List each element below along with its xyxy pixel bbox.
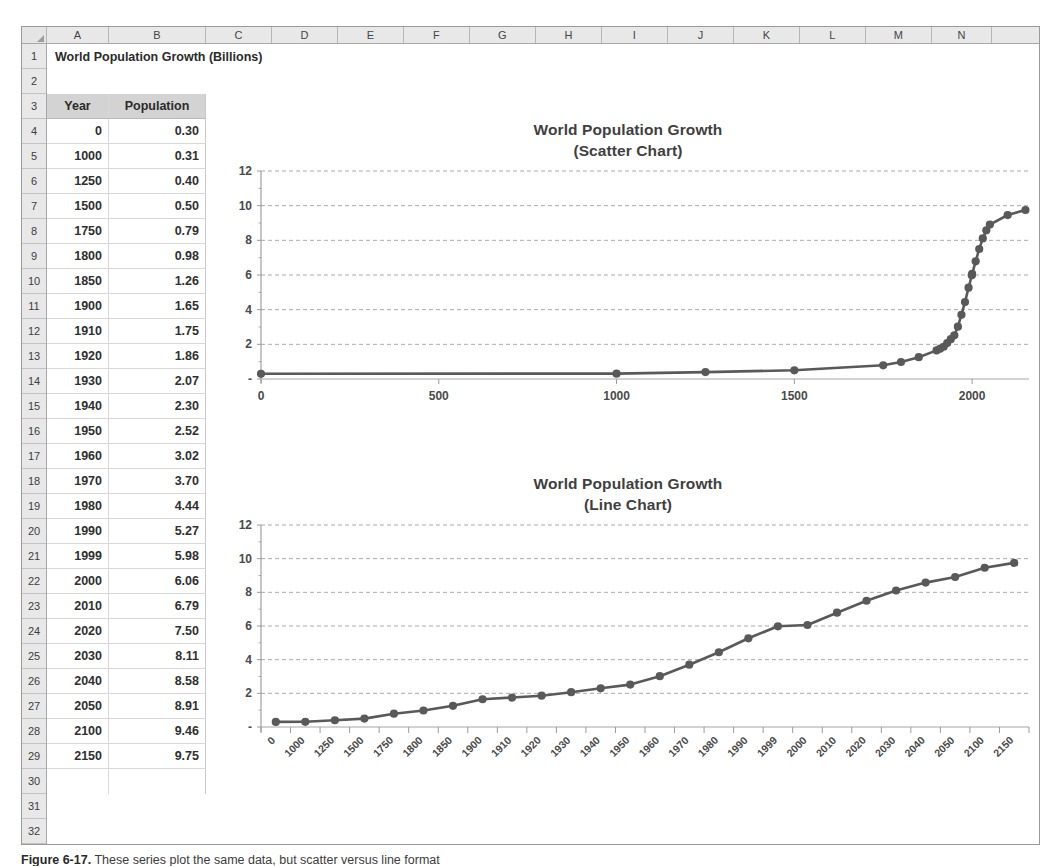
row-header-29[interactable]: 29	[22, 744, 46, 769]
data-point[interactable]	[964, 284, 972, 292]
column-header-a[interactable]: A	[47, 27, 109, 43]
data-point[interactable]	[981, 564, 989, 572]
data-point[interactable]	[419, 706, 427, 714]
cell-empty[interactable]	[109, 69, 206, 94]
row-header-12[interactable]: 12	[22, 319, 46, 344]
data-point[interactable]	[986, 220, 994, 228]
data-point[interactable]	[1010, 559, 1018, 567]
column-header-m[interactable]: M	[866, 27, 932, 43]
row-header-19[interactable]: 19	[22, 494, 46, 519]
cell-population[interactable]: 9.46	[109, 719, 206, 744]
data-point[interactable]	[897, 358, 905, 366]
cell-year[interactable]: 1990	[47, 519, 109, 544]
cell-population[interactable]: 2.30	[109, 394, 206, 419]
row-header-25[interactable]: 25	[22, 644, 46, 669]
data-point[interactable]	[950, 331, 958, 339]
row-header-13[interactable]: 13	[22, 344, 46, 369]
cell-population[interactable]: 4.44	[109, 494, 206, 519]
column-header-e[interactable]: E	[338, 27, 404, 43]
row-header-17[interactable]: 17	[22, 444, 46, 469]
row-header-18[interactable]: 18	[22, 469, 46, 494]
data-point[interactable]	[597, 684, 605, 692]
table-header-year[interactable]: Year	[47, 94, 109, 119]
cell-year[interactable]: 1750	[47, 219, 109, 244]
cell-population[interactable]: 6.79	[109, 594, 206, 619]
data-point[interactable]	[656, 672, 664, 680]
cell-population[interactable]: 0.50	[109, 194, 206, 219]
row-header-31[interactable]: 31	[22, 794, 46, 819]
column-header-b[interactable]: B	[109, 27, 206, 43]
data-point[interactable]	[257, 370, 265, 378]
cell-year[interactable]: 2020	[47, 619, 109, 644]
cell-population[interactable]: 6.06	[109, 569, 206, 594]
cell-year[interactable]: 2010	[47, 594, 109, 619]
cell-population[interactable]: 7.50	[109, 619, 206, 644]
data-point[interactable]	[972, 257, 980, 265]
row-header-4[interactable]: 4	[22, 119, 46, 144]
column-header-k[interactable]: K	[734, 27, 800, 43]
cell-population[interactable]: 0.30	[109, 119, 206, 144]
data-point[interactable]	[612, 370, 620, 378]
data-point[interactable]	[957, 311, 965, 319]
cell-year[interactable]: 1980	[47, 494, 109, 519]
data-point[interactable]	[508, 693, 516, 701]
sheet-title-cell[interactable]: World Population Growth (Billions)	[47, 44, 262, 69]
row-header-30[interactable]: 30	[22, 769, 46, 794]
scatter-chart[interactable]: World Population Growth (Scatter Chart) …	[217, 113, 1039, 443]
cell-empty[interactable]	[109, 819, 206, 844]
row-header-3[interactable]: 3	[22, 94, 46, 119]
data-point[interactable]	[879, 361, 887, 369]
cell-year[interactable]: 1000	[47, 144, 109, 169]
data-point[interactable]	[744, 634, 752, 642]
cell-population[interactable]: 3.70	[109, 469, 206, 494]
table-row[interactable]	[47, 69, 1039, 94]
cell-empty[interactable]	[47, 794, 109, 819]
column-header-c[interactable]: C	[206, 27, 272, 43]
cell-empty[interactable]	[109, 844, 206, 845]
cell-year[interactable]: 1250	[47, 169, 109, 194]
cell-year[interactable]: 2100	[47, 719, 109, 744]
data-point[interactable]	[833, 609, 841, 617]
column-header-j[interactable]: J	[668, 27, 734, 43]
cell-year[interactable]: 1800	[47, 244, 109, 269]
cell-population[interactable]: 1.86	[109, 344, 206, 369]
row-header-21[interactable]: 21	[22, 544, 46, 569]
row-header-7[interactable]: 7	[22, 194, 46, 219]
table-row[interactable]	[47, 844, 1039, 845]
cell-population[interactable]: 8.58	[109, 669, 206, 694]
row-header-10[interactable]: 10	[22, 269, 46, 294]
row-header-23[interactable]: 23	[22, 594, 46, 619]
cell-year[interactable]: 1950	[47, 419, 109, 444]
select-all-corner[interactable]	[22, 27, 47, 43]
cell-year[interactable]: 1900	[47, 294, 109, 319]
cell-population[interactable]: 0.98	[109, 244, 206, 269]
cell-year[interactable]: 1500	[47, 194, 109, 219]
data-point[interactable]	[968, 270, 976, 278]
data-point[interactable]	[272, 718, 280, 726]
table-row[interactable]: 19603.02	[47, 444, 1039, 469]
cell-population[interactable]: 0.31	[109, 144, 206, 169]
data-point[interactable]	[951, 573, 959, 581]
data-point[interactable]	[862, 597, 870, 605]
cell-year[interactable]: 1930	[47, 369, 109, 394]
data-point[interactable]	[626, 680, 634, 688]
cell-population[interactable]: 0.79	[109, 219, 206, 244]
column-header-f[interactable]: F	[404, 27, 470, 43]
cell-population[interactable]: 8.11	[109, 644, 206, 669]
row-header-26[interactable]: 26	[22, 669, 46, 694]
data-point[interactable]	[961, 298, 969, 306]
cell-year[interactable]: 1999	[47, 544, 109, 569]
cell-empty[interactable]	[47, 769, 109, 794]
row-header-8[interactable]: 8	[22, 219, 46, 244]
data-point[interactable]	[701, 368, 709, 376]
cell-year[interactable]: 0	[47, 119, 109, 144]
line-chart[interactable]: World Population Growth (Line Chart) -24…	[217, 467, 1039, 845]
row-header-27[interactable]: 27	[22, 694, 46, 719]
cell-year[interactable]: 1970	[47, 469, 109, 494]
cell-year[interactable]: 2050	[47, 694, 109, 719]
data-point[interactable]	[685, 661, 693, 669]
data-point[interactable]	[954, 323, 962, 331]
data-point[interactable]	[301, 718, 309, 726]
column-header-i[interactable]: I	[602, 27, 668, 43]
cell-year[interactable]: 1920	[47, 344, 109, 369]
